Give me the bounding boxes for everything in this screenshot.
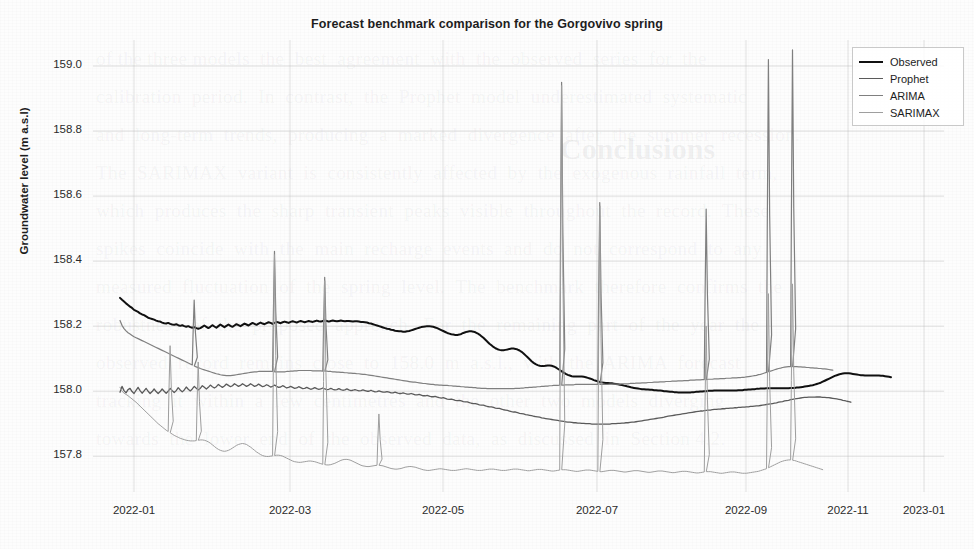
legend-item-arima[interactable]: ARIMA	[859, 87, 957, 104]
legend-item-sarimax[interactable]: SARIMAX	[859, 104, 957, 121]
legend-swatch-observed-icon	[859, 61, 883, 63]
legend-label: SARIMAX	[890, 107, 940, 119]
series-line-observed	[120, 298, 891, 393]
legend-item-prophet[interactable]: Prophet	[859, 70, 957, 87]
x-tick-label: 2022-01	[89, 504, 179, 516]
plot-area	[0, 0, 974, 549]
legend-label: Observed	[890, 56, 938, 68]
series-line-sarimax	[120, 86, 823, 474]
legend-item-observed[interactable]: Observed	[859, 53, 957, 70]
x-tick-label: 2023-01	[879, 504, 969, 516]
legend-label: ARIMA	[890, 90, 925, 102]
legend-label: Prophet	[890, 73, 929, 85]
x-tick-label: 2022-09	[701, 504, 791, 516]
legend[interactable]: ObservedProphetARIMASARIMAX	[852, 47, 964, 126]
legend-swatch-arima-icon	[859, 95, 883, 96]
gridlines	[93, 40, 944, 492]
chart-page: Conclusions of the three models the best…	[0, 0, 974, 549]
legend-swatch-sarimax-icon	[859, 112, 883, 113]
x-tick-label: 2022-03	[245, 504, 335, 516]
series-line-arima	[120, 50, 833, 389]
x-tick-label: 2022-05	[398, 504, 488, 516]
x-tick-label: 2022-07	[552, 504, 642, 516]
legend-swatch-prophet-icon	[859, 78, 883, 79]
